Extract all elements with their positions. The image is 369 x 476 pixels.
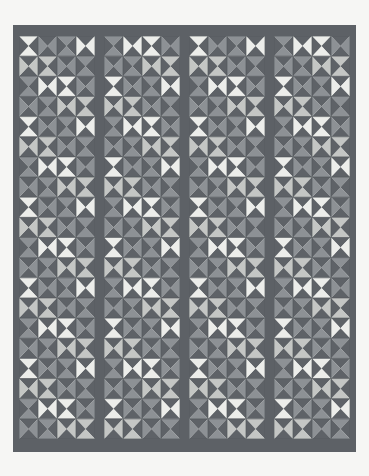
quilt-svg	[13, 25, 356, 452]
quilt-artwork	[13, 25, 356, 452]
sashing-strip-3	[265, 36, 274, 439]
screenshot-canvas: Four-Column Hourglass Quilt	[0, 0, 369, 476]
sashing-strip-1	[95, 36, 104, 439]
sashing-strip-2	[180, 36, 189, 439]
